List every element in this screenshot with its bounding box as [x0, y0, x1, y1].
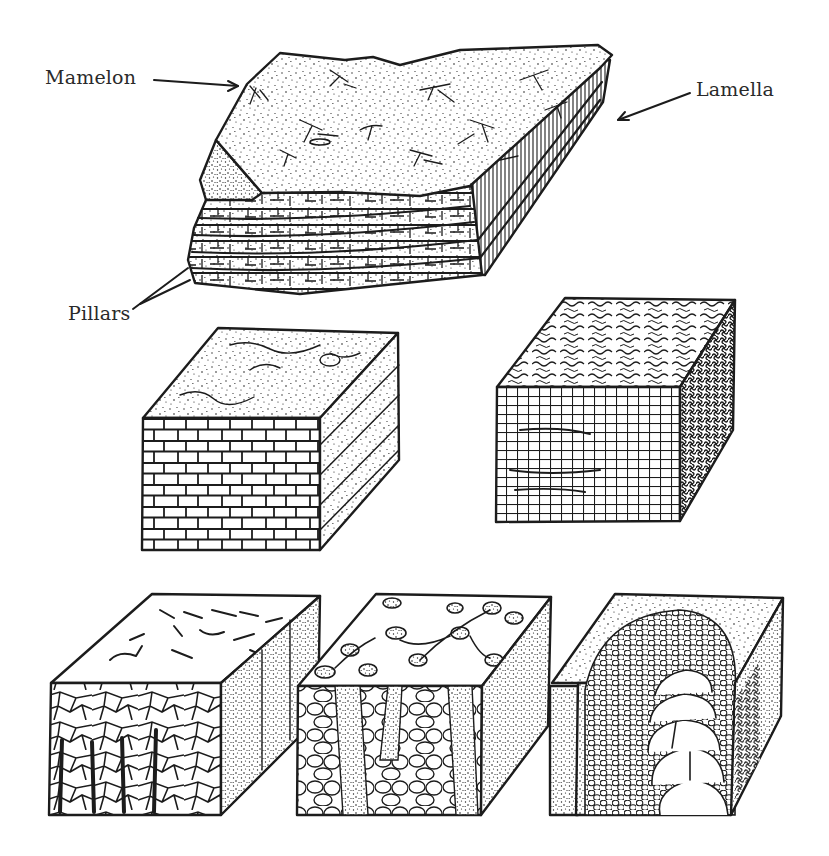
lamella-arrow — [618, 93, 690, 120]
bottom-right-back-left-strip — [550, 686, 578, 815]
bottom-left-front-face — [49, 683, 221, 815]
middle-right-front-face — [496, 387, 680, 522]
middle-right-cube — [496, 298, 735, 522]
pillars-arrow-lower — [140, 280, 190, 304]
mamelon-arrow — [154, 80, 238, 86]
bottom-left-cube — [49, 594, 320, 815]
lamella-label: Lamella — [696, 78, 774, 100]
top-slab-front-face — [188, 186, 482, 294]
bottom-middle-cube — [297, 594, 551, 815]
illustration-canvas — [0, 0, 829, 856]
mamelon-label: Mamelon — [45, 66, 136, 88]
middle-left-front-face — [142, 418, 320, 550]
top-slab-block — [188, 45, 612, 294]
bottom-right-cube — [550, 594, 783, 815]
pillars-label: Pillars — [68, 302, 131, 324]
middle-left-cube — [142, 328, 399, 550]
